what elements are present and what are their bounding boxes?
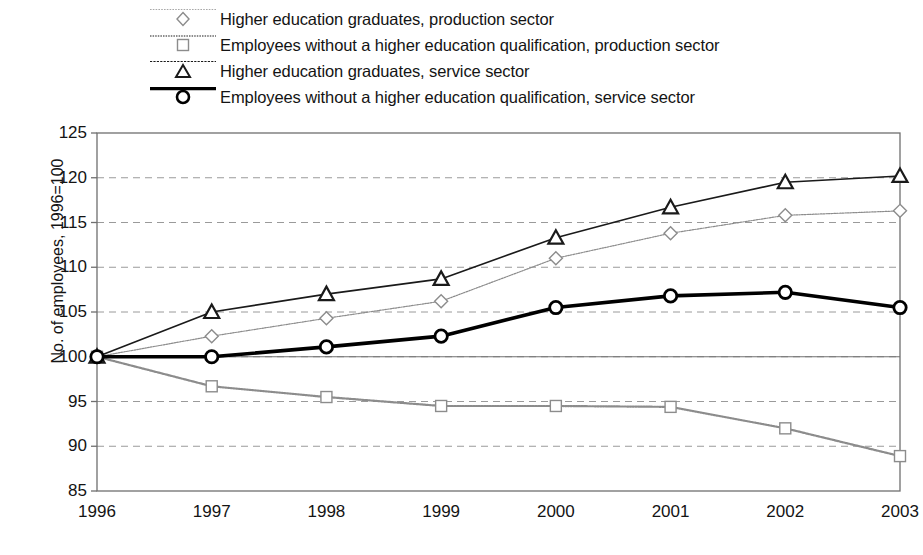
diamond-data-point-marker	[205, 330, 218, 343]
square-data-point-marker	[436, 400, 447, 411]
diamond-data-point-marker	[435, 295, 448, 308]
diamond-data-point-marker	[779, 209, 792, 222]
circle-data-point-marker	[894, 301, 906, 313]
circle-data-point-marker	[664, 290, 676, 302]
chart-canvas	[0, 0, 923, 555]
series-line	[97, 176, 900, 357]
series-4	[91, 286, 906, 363]
diamond-data-point-marker	[320, 312, 333, 325]
square-data-point-marker	[550, 400, 561, 411]
series-1	[91, 204, 907, 363]
series-2	[92, 351, 906, 461]
square-data-point-marker	[665, 401, 676, 412]
chart-figure: Higher education graduates, production s…	[0, 0, 923, 555]
circle-data-point-marker	[435, 330, 447, 342]
series-line	[97, 292, 900, 356]
diamond-data-point-marker	[894, 204, 907, 217]
chart-plot-area: No. of employees, 1996=100 8590951001051…	[0, 0, 923, 555]
square-data-point-marker	[321, 392, 332, 403]
circle-data-point-marker	[550, 301, 562, 313]
square-data-point-marker	[206, 381, 217, 392]
series-line	[97, 357, 900, 456]
triangle-data-point-marker	[893, 168, 908, 182]
circle-data-point-marker	[91, 351, 103, 363]
triangle-data-point-marker	[434, 271, 449, 285]
diamond-data-point-marker	[664, 227, 677, 240]
circle-data-point-marker	[779, 286, 791, 298]
square-data-point-marker	[895, 451, 906, 462]
square-data-point-marker	[780, 423, 791, 434]
circle-data-point-marker	[320, 341, 332, 353]
circle-data-point-marker	[206, 351, 218, 363]
diamond-data-point-marker	[549, 252, 562, 265]
